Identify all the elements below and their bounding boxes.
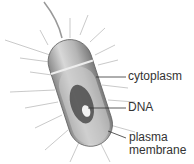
label-dna: DNA: [128, 101, 153, 114]
label-cytoplasm: cytoplasm: [128, 70, 182, 83]
flagellum: [44, 2, 62, 38]
membrane-leader: [108, 131, 126, 138]
cell-body: [42, 34, 118, 152]
label-membrane: membrane: [129, 144, 186, 157]
